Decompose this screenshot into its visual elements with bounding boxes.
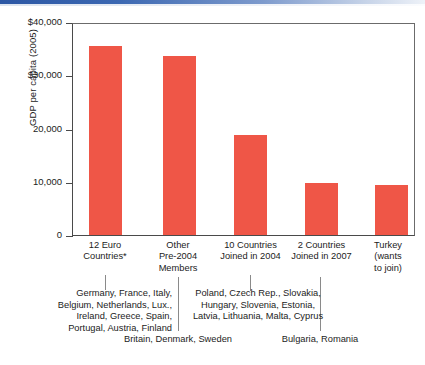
- y-tick-mark: [66, 236, 73, 237]
- detail-joined2004: Poland, Czech Rep., Slovakia, Hungary, S…: [183, 288, 333, 323]
- y-tick-label: 20,000: [0, 123, 62, 134]
- bar-pre2004: [163, 56, 196, 235]
- bar-turkey: [375, 185, 408, 235]
- leader-line-pre2004: [178, 277, 179, 331]
- plot-area: [72, 23, 415, 236]
- detail-euro12: Germany, France, Italy, Belgium, Netherl…: [30, 288, 172, 334]
- y-tick-label: 0: [0, 229, 62, 240]
- detail-pre2004: Britain, Denmark, Sweden: [121, 334, 235, 346]
- category-label-euro12: 12 Euro Countries*: [62, 240, 148, 263]
- gdp-per-capita-bar-chart: GDP per capita (2005) $40,000 $30,000 20…: [0, 0, 425, 365]
- detail-joined2007: Bulgaria, Romania: [263, 334, 377, 346]
- bar-joined2004: [234, 135, 267, 235]
- y-tick-label: 10,000: [0, 176, 62, 187]
- bar-joined2007: [305, 183, 338, 235]
- y-tick-label: $30,000: [0, 69, 62, 80]
- y-tick-label: $40,000: [0, 16, 62, 27]
- category-label-turkey: Turkey (wants to join): [360, 240, 416, 274]
- category-label-joined2007: 2 Countries Joined in 2007: [272, 240, 371, 263]
- bar-euro12: [89, 46, 122, 235]
